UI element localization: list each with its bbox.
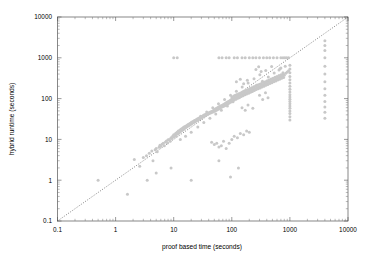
data-point [217,102,220,105]
data-point [237,166,240,169]
data-point [261,98,264,101]
data-point [272,56,275,59]
data-point [233,135,236,138]
data-point [155,147,158,150]
data-point [247,103,250,106]
y-tick-label: 0.1 [43,217,52,224]
data-point [323,94,326,97]
data-point [166,141,169,144]
data-point [236,136,239,139]
data-point [323,39,326,42]
x-axis-tick-labels: 0.1110100100010000 [53,226,357,233]
data-point [222,140,225,143]
data-point [210,141,213,144]
y-tick-label: 100 [41,95,52,102]
data-point [323,73,326,76]
data-point [179,138,182,141]
data-point [163,144,166,147]
x-tick-label: 100 [226,226,237,233]
data-point [142,156,145,159]
data-point [288,112,291,115]
data-point [184,135,187,138]
data-point [145,154,148,157]
data-point [175,132,178,135]
data-point [225,56,228,59]
x-tick-label: 0.1 [53,226,62,233]
data-point [279,67,282,70]
data-point [254,56,257,59]
x-tick-label: 1000 [283,226,298,233]
data-point [205,110,208,113]
data-point [267,76,270,79]
data-point [288,118,291,121]
data-point [288,88,291,91]
data-point [284,65,287,68]
data-point [248,131,251,134]
data-point [251,107,254,110]
data-point [190,179,193,182]
x-tick-label: 10 [170,226,178,233]
data-point [258,56,261,59]
data-point [190,131,193,134]
data-point [235,90,238,93]
data-point [245,130,248,133]
data-point [211,106,214,109]
data-point [287,56,290,59]
y-tick-label: 1 [48,177,52,184]
data-point [288,71,291,74]
data-point [215,142,218,145]
data-point [323,117,326,120]
data-point [169,140,172,143]
data-point [243,92,246,95]
data-point [264,69,267,72]
data-point [288,91,291,94]
data-point [242,82,245,85]
data-point [257,65,260,68]
data-point [196,126,199,129]
data-point [273,71,276,74]
data-point [258,94,261,97]
data-point [217,56,220,59]
data-point [133,158,136,161]
data-point [229,94,232,97]
data-point [148,152,151,155]
data-point [238,96,241,99]
data-point [323,80,326,83]
data-point [239,78,242,81]
data-point [288,93,291,96]
data-point [228,142,231,145]
data-point [241,56,244,59]
data-point [232,100,235,103]
data-point [193,119,196,122]
y-tick-label: 1000 [38,54,53,61]
data-point [199,115,202,118]
data-point [181,127,184,130]
data-point [244,109,247,112]
data-point [323,100,326,103]
data-point [172,56,175,59]
data-point [187,123,190,126]
data-point [239,132,242,135]
data-point [202,121,205,124]
data-point [323,56,326,59]
data-point [223,98,226,101]
data-point [255,84,258,87]
data-point [268,56,271,59]
data-point [97,179,100,182]
data-point [323,111,326,114]
x-axis-title: proof based time (seconds) [162,243,242,251]
data-point [262,56,265,59]
data-points-layer [97,39,327,195]
data-point [244,56,247,59]
data-point [220,109,223,112]
data-point [267,96,270,99]
data-point [170,166,173,169]
data-point [253,77,256,80]
data-point [155,172,158,175]
plot-canvas: 0.1110100100010000 0.1110100100010000 pr… [0,0,369,255]
data-point [270,65,273,68]
data-point [254,68,257,71]
data-point [242,133,245,136]
data-point [226,104,229,107]
data-point [288,68,291,71]
